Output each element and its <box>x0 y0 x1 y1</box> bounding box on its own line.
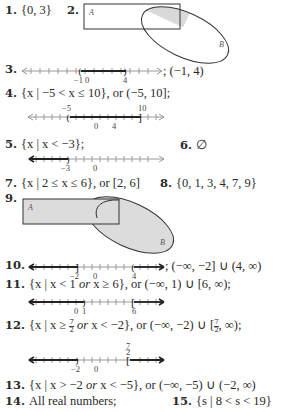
svg-text:4: 4 <box>123 75 128 85</box>
svg-text:0: 0 <box>85 75 89 85</box>
svg-text:−3: −3 <box>61 163 70 173</box>
answer-10-interval: ; (−∞, −2] ∪ (4, ∞) <box>165 258 261 274</box>
answer-15: 15.{s | 8 < s < 19} <box>172 394 272 409</box>
answer-6: 6.∅ <box>180 137 207 153</box>
svg-text:0: 0 <box>93 163 97 173</box>
svg-text:0: 0 <box>74 306 78 316</box>
number-line-4: −510 (] 04 <box>28 104 228 134</box>
answer-5: 5.{x | x < −3}; <box>5 137 84 152</box>
svg-text:(: ( <box>66 112 70 123</box>
answer-7: 7.{x | 2 ≤ x ≤ 6}, or [2, 6] <box>5 176 140 191</box>
svg-text:4: 4 <box>112 121 117 131</box>
svg-text:]: ] <box>138 112 142 123</box>
answer-4: 4.{x | −5 < x ≤ 10}, or (−5, 10]; <box>5 86 170 101</box>
number-line-11: ) [ 016 <box>28 296 228 318</box>
set-a-label: A <box>27 203 33 212</box>
svg-text:[: [ <box>126 355 130 366</box>
svg-text:6: 6 <box>132 306 136 316</box>
svg-text:0: 0 <box>94 364 98 374</box>
answer-14: 14.All real numbers; <box>5 394 117 409</box>
set-b-label: B <box>160 238 165 247</box>
venn-diagram-9: A B <box>0 0 283 60</box>
answer-8: 8.{0, 1, 3, 4, 7, 9} <box>160 176 257 191</box>
svg-text:0: 0 <box>94 121 98 131</box>
answer-9-label: 9. <box>5 191 21 205</box>
number-line-5: ) −30 <box>28 154 228 178</box>
answer-3-label: 3. <box>5 62 21 76</box>
answer-13: 13.{x | x > −2 or x < −5}, or (−∞, −5) ∪… <box>5 377 256 393</box>
answer-11: 11.{x | x < 1 or x ≥ 6}, or (−∞, 1) ∪ [6… <box>5 276 231 292</box>
answer-10-label: 10. <box>5 258 29 272</box>
answer-12: 12.{x | x ≥ 72 or x < −2}, or (−∞, −2) ∪… <box>5 317 241 334</box>
answer-3-interval: ; (−1, 4) <box>163 64 204 79</box>
svg-text:−1: −1 <box>74 75 83 85</box>
svg-text:1: 1 <box>82 306 86 316</box>
svg-text:−2: −2 <box>71 364 80 374</box>
number-line-12: 7 2 ) [ −20 <box>28 343 228 375</box>
